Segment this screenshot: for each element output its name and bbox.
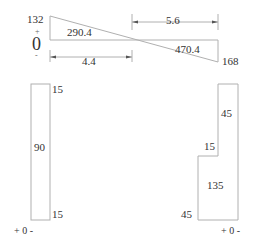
left-axis-label: + 0 - xyxy=(14,225,33,236)
left-middle-value: 90 xyxy=(34,142,45,153)
right-area-value: 470.4 xyxy=(175,44,200,55)
right-step-value: 15 xyxy=(204,141,215,152)
dim-right-label: 5.6 xyxy=(166,15,180,26)
minus-sign: - xyxy=(35,52,38,60)
left-moment-value: 132 xyxy=(27,14,44,25)
arrow-icon xyxy=(212,21,218,24)
arrow-icon xyxy=(50,56,56,59)
right-upper-value: 45 xyxy=(221,108,232,119)
left-area-value: 290.4 xyxy=(67,27,92,38)
right-bottom-value: 45 xyxy=(181,209,192,220)
dim-left-label: 4.4 xyxy=(82,56,96,67)
left-bottom-value: 15 xyxy=(52,209,63,220)
diagonal-line xyxy=(50,16,218,62)
right-moment-value: 168 xyxy=(222,56,239,67)
arrow-icon xyxy=(132,21,138,24)
left-top-value: 15 xyxy=(52,84,63,95)
right-axis-label: + 0 - xyxy=(221,225,240,236)
arrow-icon xyxy=(126,56,132,59)
right-shear-shape xyxy=(198,84,238,220)
right-lower-value: 135 xyxy=(207,180,224,191)
